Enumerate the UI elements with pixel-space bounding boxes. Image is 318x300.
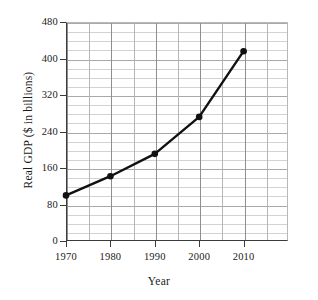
plot-area xyxy=(66,22,288,241)
gridline-h-major xyxy=(67,206,287,207)
gridline-h-minor xyxy=(67,105,287,106)
gridline-h-minor xyxy=(67,196,287,197)
gridline-h-minor xyxy=(67,160,287,161)
gridline-h-major xyxy=(67,23,287,24)
gridline-h-minor xyxy=(67,233,287,234)
x-axis-tick xyxy=(66,241,67,247)
gridline-v-major xyxy=(67,23,68,240)
x-axis-title: Year xyxy=(0,275,318,287)
x-axis-tick xyxy=(155,241,156,247)
gridline-v-minor xyxy=(134,23,135,240)
gridline-h-major xyxy=(67,169,287,170)
gridline-v-minor xyxy=(89,23,90,240)
x-axis-tick xyxy=(199,241,200,247)
gdp-line-chart: 080160240320400480 19701980199020002010 … xyxy=(0,0,318,300)
gridline-h-minor xyxy=(67,178,287,179)
gridline-h-minor xyxy=(67,50,287,51)
y-axis-tick xyxy=(60,95,66,96)
x-tick-label: 2010 xyxy=(218,252,270,263)
gridline-v-major xyxy=(111,23,112,240)
y-axis-tick xyxy=(60,132,66,133)
gridline-h-major xyxy=(67,133,287,134)
gridline-v-major xyxy=(156,23,157,240)
gridline-h-major xyxy=(67,96,287,97)
gridline-h-minor xyxy=(67,114,287,115)
gridline-h-minor xyxy=(67,142,287,143)
gridline-h-minor xyxy=(67,69,287,70)
gridline-h-minor xyxy=(67,151,287,152)
gridline-h-major xyxy=(67,60,287,61)
gridline-v-major xyxy=(245,23,246,240)
y-axis-tick xyxy=(60,22,66,23)
x-axis-tick xyxy=(110,241,111,247)
gridline-v-minor xyxy=(267,23,268,240)
gridline-v-minor xyxy=(178,23,179,240)
gridline-h-minor xyxy=(67,32,287,33)
gridline-h-minor xyxy=(67,123,287,124)
gridline-h-minor xyxy=(67,215,287,216)
y-axis-tick xyxy=(60,59,66,60)
y-axis-title: Real GDP ($ in billions) xyxy=(22,20,34,240)
gridline-v-minor xyxy=(222,23,223,240)
gridline-h-minor xyxy=(67,87,287,88)
x-axis-tick xyxy=(244,241,245,247)
gridline-v-major xyxy=(200,23,201,240)
gridline-h-minor xyxy=(67,224,287,225)
gridline-h-minor xyxy=(67,78,287,79)
gridline-h-minor xyxy=(67,187,287,188)
gridline-h-minor xyxy=(67,41,287,42)
y-axis-tick xyxy=(60,205,66,206)
y-axis-tick xyxy=(60,168,66,169)
